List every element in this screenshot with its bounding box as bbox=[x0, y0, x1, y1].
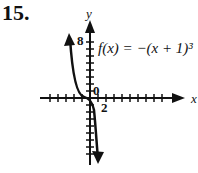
x-tick-label-2: 2 bbox=[101, 100, 108, 116]
curve-up-arrow-icon bbox=[64, 33, 75, 46]
function-label: f(x) = −(x + 1)³ bbox=[98, 40, 193, 57]
origin-label: 0 bbox=[93, 83, 100, 99]
y-axis-label: y bbox=[86, 6, 92, 22]
curve-down-arrow-icon bbox=[92, 151, 104, 164]
y-tick-label-8: 8 bbox=[77, 33, 84, 49]
x-axis-label: x bbox=[191, 91, 197, 107]
x-axis-arrow-icon bbox=[172, 93, 185, 103]
